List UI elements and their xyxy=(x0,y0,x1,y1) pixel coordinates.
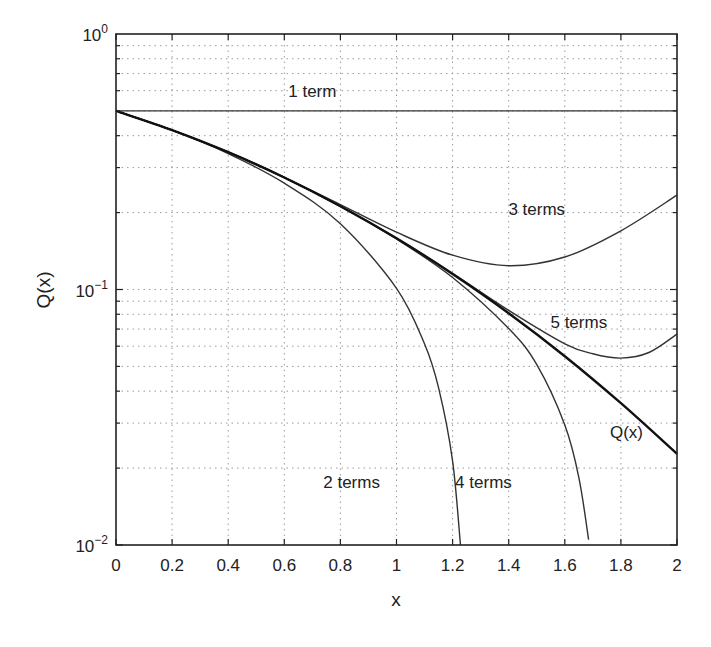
y-tick-label: 100 xyxy=(82,22,108,45)
x-tick-label: 0 xyxy=(111,556,120,575)
y-tick-labels: 10010−110−2 xyxy=(75,22,108,556)
x-tick-label: 1 xyxy=(392,556,401,575)
x-tick-label: 1.6 xyxy=(553,556,577,575)
y-axis-label: Q(x) xyxy=(33,272,54,309)
curve-label-3-terms: 3 terms xyxy=(508,200,565,219)
x-tick-label: 0.2 xyxy=(160,556,184,575)
x-tick-label: 0.8 xyxy=(329,556,353,575)
curve-label-4-terms: 4 terms xyxy=(455,473,512,492)
x-tick-label: 1.4 xyxy=(497,556,521,575)
x-axis-label: x xyxy=(391,589,401,610)
curve-2-terms xyxy=(116,111,461,545)
x-tick-label: 0.4 xyxy=(216,556,240,575)
curve-label-5-terms: 5 terms xyxy=(550,313,607,332)
x-tick-label: 0.6 xyxy=(272,556,296,575)
x-tick-labels: 00.20.40.60.811.21.41.61.82 xyxy=(111,556,681,575)
curve-label-q-x: Q(x) xyxy=(610,423,643,442)
q-function-series-chart: 00.20.40.60.811.21.41.61.82 10010−110−2 … xyxy=(0,0,711,647)
x-tick-label: 1.2 xyxy=(441,556,465,575)
curve-label-1-term: 1 term xyxy=(288,82,336,101)
y-tick-label: 10−1 xyxy=(75,278,108,301)
curve-labels: 1 term2 terms3 terms4 terms5 termsQ(x) xyxy=(288,82,643,492)
y-tick-label: 10−2 xyxy=(75,533,108,556)
x-tick-label: 1.8 xyxy=(609,556,633,575)
curve-label-2-terms: 2 terms xyxy=(323,473,380,492)
x-tick-label: 2 xyxy=(672,556,681,575)
